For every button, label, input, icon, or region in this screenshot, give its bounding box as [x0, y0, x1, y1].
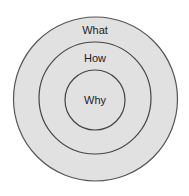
label-how: How [84, 52, 106, 64]
label-what: What [82, 24, 108, 36]
golden-circle-diagram: What How Why [0, 0, 189, 196]
label-why: Why [84, 94, 107, 106]
